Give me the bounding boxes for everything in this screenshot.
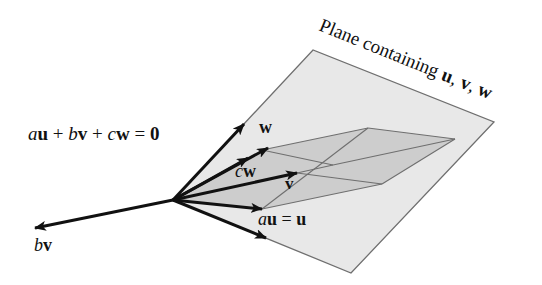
label-v: v [285,174,294,193]
vector-diagram: Plane containing u, v, w au + bv + cw = … [0,0,542,285]
label-w: w [259,117,272,137]
vector-bv [35,200,173,228]
equation-label: au + bv + cw = 0 [28,123,159,144]
label-cw: cw [235,161,256,181]
label-au-eq-u: au = u [258,209,306,229]
label-bv: bv [34,235,52,255]
diagram-canvas: Plane containing u, v, w au + bv + cw = … [0,0,542,285]
